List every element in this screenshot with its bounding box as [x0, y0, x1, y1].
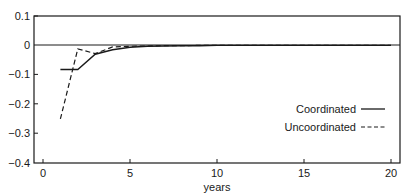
- plot-frame: [34, 16, 400, 163]
- x-tick-label: 15: [298, 167, 310, 179]
- legend-label-coordinated: Coordinated: [296, 103, 356, 115]
- y-tick-label: −0.2: [8, 98, 30, 110]
- x-tick-label: 5: [127, 167, 133, 179]
- legend-label-uncoordinated: Uncoordinated: [284, 121, 356, 133]
- y-tick-label: −0.1: [8, 68, 30, 80]
- series-coordinated-line: [60, 45, 391, 69]
- x-tick-label: 20: [385, 167, 397, 179]
- x-tick-label: 10: [211, 167, 223, 179]
- line-chart: 0.1 0 −0.1 −0.2 −0.3 −0.4 0 5 10 15 20 y…: [0, 0, 406, 195]
- y-tick-label: 0.1: [15, 10, 30, 22]
- x-tick-label: 0: [40, 167, 46, 179]
- y-tick-label: −0.3: [8, 127, 30, 139]
- x-axis-title: years: [204, 181, 231, 193]
- y-tick-label: 0: [24, 39, 30, 51]
- x-axis: 0 5 10 15 20 years: [40, 159, 397, 193]
- y-tick-label: −0.4: [8, 157, 30, 169]
- legend: Coordinated Uncoordinated: [284, 103, 385, 133]
